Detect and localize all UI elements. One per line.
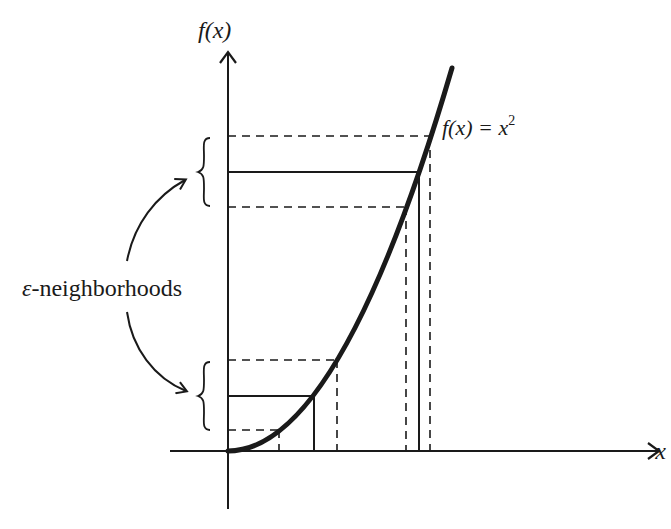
curve-label-lhs: f(x) = x bbox=[442, 115, 508, 140]
curve-label: f(x) = x2 bbox=[442, 113, 515, 140]
epsilon-neighborhood-diagram: f(x) x f(x) = x2 ε-neighborhoods bbox=[0, 0, 671, 529]
upper-neighborhood-lines bbox=[228, 136, 430, 451]
upper-brace-icon bbox=[198, 138, 210, 206]
neighborhoods-text: -neighborhoods bbox=[31, 275, 182, 301]
curve-label-exponent: 2 bbox=[508, 113, 515, 128]
upper-curved-arrow-icon bbox=[127, 180, 185, 261]
epsilon-neighborhoods-label: ε-neighborhoods bbox=[22, 275, 182, 301]
lower-curved-arrow-icon bbox=[127, 312, 186, 391]
lower-brace-icon bbox=[198, 362, 210, 430]
lower-neighborhood-lines bbox=[228, 360, 337, 451]
axes bbox=[170, 52, 659, 509]
y-axis-label: f(x) bbox=[198, 17, 231, 43]
x-axis-label: x bbox=[654, 438, 666, 464]
